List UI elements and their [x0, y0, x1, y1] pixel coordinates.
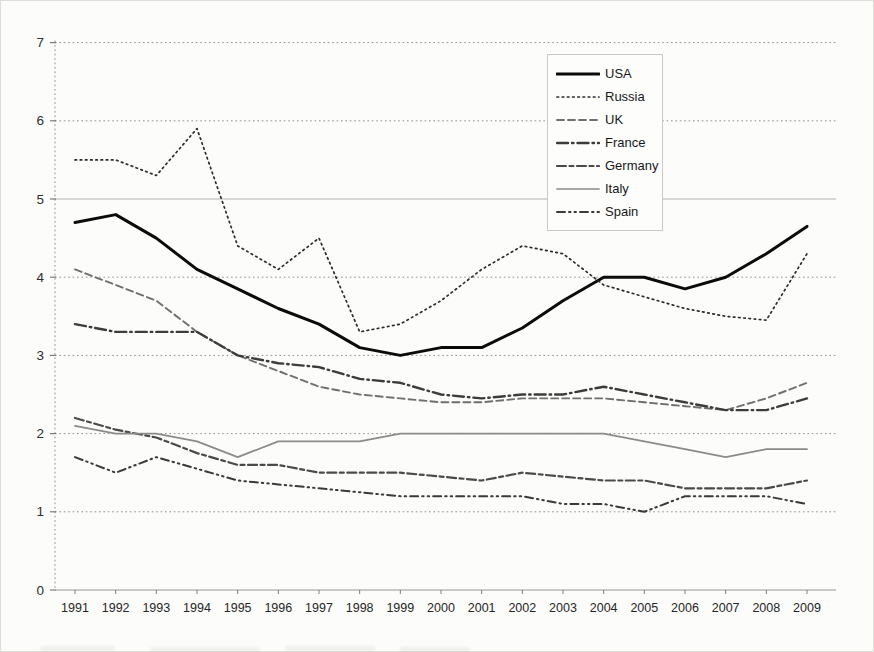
x-axis-label: 2002 [508, 601, 536, 615]
x-axis-label: 2004 [590, 601, 618, 615]
y-axis-label: 7 [36, 35, 44, 50]
legend-item-usa: USA [556, 62, 656, 85]
series-line-germany [75, 418, 807, 488]
legend-sample-line-usa [556, 68, 600, 80]
series-line-spain [75, 457, 807, 512]
legend-sample-line-italy [556, 183, 600, 195]
legend-item-uk: UK [556, 108, 656, 131]
x-axis-label: 1991 [61, 601, 89, 615]
legend-label: Spain [605, 205, 638, 218]
y-axis-label: 6 [36, 113, 44, 128]
x-axis-label: 2007 [712, 601, 740, 615]
legend-sample-line-france [556, 137, 600, 149]
legend-item-italy: Italy [556, 177, 656, 200]
cutoff-caption-artifact [40, 646, 115, 651]
legend-item-france: France [556, 131, 656, 154]
x-axis-label: 2000 [427, 601, 455, 615]
x-axis-label: 1997 [305, 601, 333, 615]
legend-sample-line-russia [556, 91, 600, 103]
legend-label: Russia [605, 90, 645, 103]
legend-item-germany: Germany [556, 154, 656, 177]
x-axis-label: 2009 [793, 601, 821, 615]
x-axis-label: 1998 [346, 601, 374, 615]
chart-area: 0123456719911992199319941995199619971998… [0, 0, 874, 652]
x-axis-label: 2008 [752, 601, 780, 615]
legend-sample-line-spain [556, 206, 600, 218]
legend-item-russia: Russia [556, 85, 656, 108]
x-axis-label: 1999 [386, 601, 414, 615]
cutoff-caption-artifact [150, 647, 260, 652]
x-axis-label: 1992 [102, 601, 130, 615]
legend-box: USARussiaUKFranceGermanyItalySpain [547, 54, 663, 231]
x-axis-label: 2006 [671, 601, 699, 615]
y-axis-label: 0 [36, 583, 44, 598]
x-axis-label: 1993 [142, 601, 170, 615]
cutoff-caption-artifact [400, 647, 470, 652]
legend-item-spain: Spain [556, 200, 656, 223]
x-axis-label: 1996 [264, 601, 292, 615]
series-line-italy [75, 426, 807, 457]
legend-label: Germany [605, 159, 658, 172]
x-axis-label: 2003 [549, 601, 577, 615]
scanned-line-chart-figure: 0123456719911992199319941995199619971998… [0, 0, 874, 652]
legend-sample-line-uk [556, 114, 600, 126]
y-axis-label: 3 [36, 348, 44, 363]
series-line-uk [75, 269, 807, 410]
legend-sample-line-germany [556, 160, 600, 172]
legend-label: Italy [605, 182, 629, 195]
x-axis-label: 2001 [468, 601, 496, 615]
cutoff-caption-artifact [285, 646, 375, 651]
series-line-russia [75, 129, 807, 332]
legend-label: UK [605, 113, 623, 126]
x-axis-label: 1995 [224, 601, 252, 615]
y-axis-label: 4 [36, 270, 44, 285]
legend-label: France [605, 136, 645, 149]
y-axis-label: 2 [36, 426, 44, 441]
y-axis-label: 5 [36, 192, 44, 207]
series-line-france [75, 324, 807, 410]
series-line-usa [75, 215, 807, 356]
legend-label: USA [605, 67, 632, 80]
x-axis-label: 2005 [630, 601, 658, 615]
y-axis-label: 1 [36, 504, 44, 519]
x-axis-label: 1994 [183, 601, 211, 615]
